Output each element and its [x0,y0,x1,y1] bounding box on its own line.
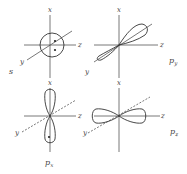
y-axis-label: y [19,58,25,66]
orbital-name-pz: pz [170,127,178,137]
panel-px: z y px [14,88,82,168]
x-axis-label-bottom: x [48,79,52,87]
y-axis-label: y [84,68,90,76]
z-axis-label: z [160,112,165,120]
electron-dot [48,136,50,138]
orbital-diagram: x x z y s x x z y py z y px z y [0,0,187,174]
orbital-name-px: px [45,158,54,168]
x-axis-label-top: x [48,6,52,14]
panel-s: x x z y s [9,6,82,87]
z-axis-label: z [159,41,164,49]
x-axis-label-bottom: x [117,79,121,87]
electron-dot [54,49,56,51]
y-axis [27,31,72,60]
y-axis-label: y [14,129,20,137]
orbital-name-py: py [169,56,178,67]
z-axis-label: z [77,112,82,120]
panel-py: x x z y py [84,6,178,87]
py-lobe-upper [119,24,147,45]
x-axis-label-top: x [117,6,121,14]
y-axis [94,24,152,62]
y-axis-label: y [82,129,88,137]
z-axis-label: z [77,41,82,49]
orbital-name-s: s [9,67,13,76]
panel-pz: z y pz [82,88,178,152]
electron-dot [54,40,56,42]
